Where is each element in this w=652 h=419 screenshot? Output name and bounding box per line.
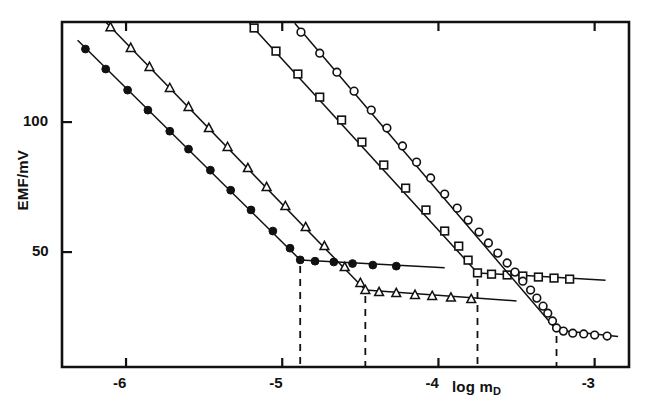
data-point-marker — [453, 204, 461, 212]
x-axis-label: log mD — [452, 378, 501, 397]
data-point-marker — [475, 228, 483, 236]
figure-panel: EMF/mV log mD -6-5-4-310050 — [0, 0, 652, 419]
trend-line — [365, 290, 516, 301]
y-tick-label-0: 100 — [23, 112, 48, 129]
data-point-marker — [488, 270, 496, 278]
data-point-marker — [166, 127, 174, 135]
data-point-marker — [124, 86, 132, 94]
data-point-marker — [455, 242, 463, 250]
data-point-marker — [294, 70, 302, 78]
series-open-squares — [249, 23, 605, 283]
data-point-marker — [441, 190, 449, 198]
x-tick-label-3: -3 — [582, 374, 595, 391]
data-point-marker — [422, 206, 430, 214]
data-point-marker — [338, 116, 346, 124]
data-point-marker — [185, 145, 193, 153]
break-lines — [300, 266, 556, 367]
data-point-marker — [494, 249, 502, 257]
data-point-marker — [427, 174, 435, 182]
data-point-marker — [511, 268, 519, 276]
data-point-marker — [566, 275, 574, 283]
series-filled-circles — [78, 40, 445, 270]
x-tick-label-0: -6 — [113, 374, 126, 391]
data-point-marker — [311, 257, 319, 265]
data-point-marker — [591, 331, 599, 339]
data-point-marker — [350, 87, 358, 95]
x-tick-label-1: -5 — [269, 374, 282, 391]
x-axis-label-subscript: D — [493, 385, 501, 397]
data-point-marker — [527, 286, 535, 294]
data-point-marker — [206, 166, 214, 174]
data-point-marker — [519, 277, 527, 285]
data-point-marker — [485, 239, 493, 247]
data-point-marker — [392, 262, 400, 270]
data-series — [78, 22, 618, 340]
data-point-marker — [316, 93, 324, 101]
data-point-marker — [297, 28, 305, 36]
data-point-marker — [223, 142, 232, 150]
data-point-marker — [272, 47, 280, 55]
data-point-marker — [550, 274, 558, 282]
data-point-marker — [399, 142, 407, 150]
data-point-marker — [286, 244, 294, 252]
data-point-marker — [247, 206, 255, 214]
data-point-marker — [227, 186, 235, 194]
data-point-marker — [560, 327, 568, 335]
data-point-marker — [474, 269, 482, 277]
x-axis-label-main: log m — [452, 378, 493, 395]
data-point-marker — [402, 184, 410, 192]
data-point-marker — [533, 294, 541, 302]
data-point-marker — [569, 329, 577, 337]
data-point-marker — [464, 256, 472, 264]
data-point-marker — [535, 273, 543, 281]
data-point-marker — [269, 227, 277, 235]
data-point-marker — [380, 161, 388, 169]
data-point-marker — [503, 259, 511, 267]
data-point-marker — [544, 309, 552, 317]
data-point-marker — [358, 138, 366, 146]
data-point-marker — [301, 222, 310, 230]
data-point-marker — [367, 106, 375, 114]
data-point-marker — [316, 49, 324, 57]
data-point-marker — [539, 302, 547, 310]
y-tick-label-1: 50 — [32, 242, 49, 259]
y-axis-label: EMF/mV — [14, 150, 31, 210]
data-point-marker — [102, 65, 110, 73]
x-tick-label-2: -4 — [425, 374, 438, 391]
data-point-marker — [580, 330, 588, 338]
data-point-marker — [262, 182, 271, 190]
data-point-marker — [413, 158, 421, 166]
data-point-marker — [281, 201, 290, 209]
data-point-marker — [603, 332, 611, 340]
series-open-circles — [295, 23, 618, 340]
data-point-marker — [144, 106, 152, 114]
axis-ticks — [62, 22, 595, 367]
data-point-marker — [333, 68, 341, 76]
data-point-marker — [82, 45, 90, 53]
data-point-marker — [349, 260, 357, 268]
data-point-marker — [296, 256, 304, 264]
emf-titration-chart — [0, 0, 652, 419]
data-point-marker — [250, 24, 258, 32]
data-point-marker — [369, 261, 377, 269]
data-point-marker — [383, 124, 391, 132]
data-point-marker — [464, 216, 472, 224]
data-point-marker — [441, 227, 449, 235]
